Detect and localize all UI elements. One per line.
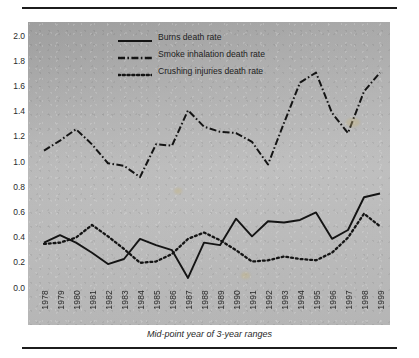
- x-tick-label: 1986: [168, 290, 178, 310]
- series-line-smoke-inhalation-death-rate: [44, 73, 380, 178]
- smoke-line-key: [118, 49, 152, 59]
- x-tick-label: 1997: [344, 290, 354, 310]
- y-tick-label: 0.2: [3, 258, 25, 267]
- x-tick-label: 1996: [328, 290, 338, 310]
- legend-item-2: Crushing injuries death rate: [118, 62, 298, 79]
- chart-legend: Burns death rateSmoke inhalation death r…: [118, 28, 298, 79]
- burns-line-key: [118, 32, 152, 42]
- x-tick-label: 1985: [152, 290, 162, 310]
- x-tick-label: 1978: [40, 290, 50, 310]
- legend-item-0: Burns death rate: [118, 28, 298, 45]
- x-axis-caption: Mid-point year of 3-year ranges: [0, 329, 419, 339]
- bottom-horizontal-rule: [22, 347, 397, 349]
- x-tick-label: 1999: [376, 290, 386, 310]
- y-tick-label: 2.0: [3, 32, 25, 41]
- x-axis-tick-labels: 1978197919801981198219831984198519861987…: [28, 288, 390, 328]
- y-tick-label: 1.6: [3, 82, 25, 91]
- x-tick-label: 1984: [136, 290, 146, 310]
- y-tick-label: 0.4: [3, 233, 25, 242]
- x-tick-label: 1982: [104, 290, 114, 310]
- y-tick-label: 0.6: [3, 208, 25, 217]
- legend-label: Smoke inhalation death rate: [158, 49, 265, 59]
- x-tick-label: 1993: [280, 290, 290, 310]
- y-tick-label: 1.8: [3, 57, 25, 66]
- x-tick-label: 1981: [88, 290, 98, 310]
- chart-figure: 2.01.81.61.41.21.00.80.60.40.20.0 Burns …: [0, 0, 419, 358]
- x-tick-label: 1979: [56, 290, 66, 310]
- y-tick-label: 1.4: [3, 107, 25, 116]
- x-tick-label: 1983: [120, 290, 130, 310]
- y-tick-label: 1.2: [3, 132, 25, 141]
- y-tick-label: 0.0: [3, 284, 25, 293]
- x-tick-label: 1991: [248, 290, 258, 310]
- x-tick-label: 1989: [216, 290, 226, 310]
- x-tick-label: 1990: [232, 290, 242, 310]
- x-tick-label: 1992: [264, 290, 274, 310]
- y-tick-label: 1.0: [3, 158, 25, 167]
- x-tick-label: 1980: [72, 290, 82, 310]
- x-tick-label: 1987: [184, 290, 194, 310]
- crushing-line-key: [118, 66, 152, 76]
- legend-label: Burns death rate: [158, 32, 222, 42]
- legend-label: Crushing injuries death rate: [158, 66, 263, 76]
- x-tick-label: 1998: [360, 290, 370, 310]
- x-tick-label: 1988: [200, 290, 210, 310]
- legend-item-1: Smoke inhalation death rate: [118, 45, 298, 62]
- y-tick-label: 0.8: [3, 183, 25, 192]
- x-tick-label: 1994: [296, 290, 306, 310]
- y-axis-tick-labels: 2.01.81.61.41.21.00.80.60.40.20.0: [0, 22, 25, 325]
- x-tick-label: 1995: [312, 290, 322, 310]
- top-horizontal-rule: [22, 7, 397, 9]
